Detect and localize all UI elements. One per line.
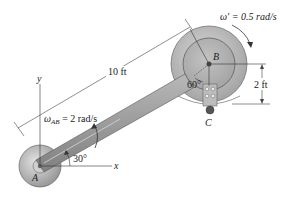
point-c-label: C xyxy=(205,117,212,128)
point-a-label: A xyxy=(31,172,39,183)
rod-length-label: 10 ft xyxy=(108,66,127,77)
omega-prime-label: ω′ = 0.5 rad/s xyxy=(220,11,277,22)
axis-x-label: x xyxy=(113,160,119,171)
slider-block-c xyxy=(203,84,217,114)
radius-label: 2 ft xyxy=(254,79,268,90)
angle-c-label: 60° xyxy=(187,79,201,90)
axis-y-label: y xyxy=(36,73,42,84)
point-b-label: B xyxy=(213,51,219,62)
omega-ab-label: ωAB = 2 rad/s xyxy=(44,113,97,126)
rod-angle-label: 30° xyxy=(73,153,87,164)
pin-c xyxy=(206,106,214,114)
diagram-canvas: 10 ft ω′ = 0.5 rad/s B 60° 2 ft C y x A … xyxy=(0,0,299,201)
